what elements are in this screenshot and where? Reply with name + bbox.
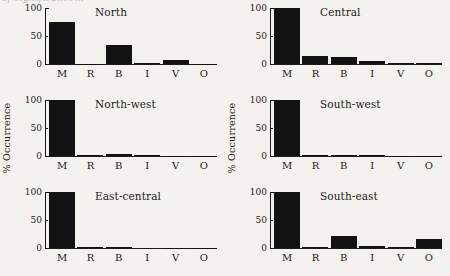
x-tick-O: O [191, 252, 217, 263]
x-tick-M: M [274, 68, 300, 79]
panel-title: South-east [320, 190, 378, 202]
y-tick-mark-50 [45, 36, 48, 37]
y-axis-label: % Occurrence [225, 92, 239, 184]
x-tick-M: M [49, 68, 75, 79]
x-tick-O: O [191, 160, 217, 171]
bar-B [106, 154, 132, 156]
x-tick-R: R [302, 252, 328, 263]
x-tick-R: R [302, 68, 328, 79]
panel-north: North100500MRBIVONorth [0, 0, 225, 92]
bar-slot-O [191, 192, 217, 248]
y-tick-50: 50 [241, 216, 267, 225]
x-tick-B: B [106, 160, 132, 171]
bar-slot-O [191, 8, 217, 64]
bar-V [388, 247, 414, 248]
bar-O [416, 63, 442, 64]
y-tick-100: 100 [16, 4, 42, 13]
bar-M [274, 100, 300, 156]
y-tick-100: 100 [241, 188, 267, 197]
x-tick-M: M [49, 252, 75, 263]
bar-slot-V [388, 8, 414, 64]
x-tick-I: I [134, 160, 160, 171]
x-tick-R: R [302, 160, 328, 171]
x-tick-B: B [106, 68, 132, 79]
panel-north-west: % Occurrence100500MRBIVONorth-west [0, 92, 225, 184]
y-tick-mark-50 [270, 36, 273, 37]
y-tick-100: 100 [16, 188, 42, 197]
x-tick-I: I [359, 68, 385, 79]
panel-grid: North100500MRBIVONorthCentral100500MRBIV… [0, 0, 450, 276]
x-tick-O: O [416, 160, 442, 171]
panel-title: Central [320, 6, 361, 18]
y-tick-labels: 100500 [239, 92, 267, 184]
bar-O [416, 239, 442, 248]
y-axis-label: % Occurrence [0, 92, 14, 184]
panel-title: North [95, 6, 127, 18]
x-tick-V: V [163, 160, 189, 171]
y-tick-100: 100 [241, 4, 267, 13]
x-tick-I: I [134, 68, 160, 79]
x-axis-baseline [270, 64, 442, 65]
y-tick-50: 50 [241, 32, 267, 41]
panel-central: Central100500MRBIVOCentral [225, 0, 450, 92]
bar-slot-M [274, 192, 300, 248]
y-tick-0: 0 [16, 60, 42, 69]
bar-R [77, 155, 103, 156]
y-tick-labels: 100500 [14, 184, 42, 276]
y-tick-mark-50 [45, 220, 48, 221]
x-axis-baseline [45, 64, 217, 65]
y-tick-0: 0 [241, 60, 267, 69]
y-tick-labels: 100500 [14, 92, 42, 184]
panel-south-west: % Occurrence100500MRBIVOSouth-west [225, 92, 450, 184]
y-tick-mark-50 [270, 128, 273, 129]
y-tick-100: 100 [241, 96, 267, 105]
x-tick-labels: MRBIVO [274, 252, 442, 263]
x-tick-I: I [359, 252, 385, 263]
y-tick-mark-50 [270, 220, 273, 221]
bar-M [274, 192, 300, 248]
bar-R [77, 247, 103, 248]
x-tick-O: O [191, 68, 217, 79]
x-tick-R: R [77, 160, 103, 171]
bar-I [134, 155, 160, 156]
y-tick-0: 0 [16, 244, 42, 253]
y-tick-50: 50 [241, 124, 267, 133]
bar-slot-I [359, 8, 385, 64]
plot-area [45, 8, 217, 65]
bar-slot-V [163, 100, 189, 156]
bar-B [106, 45, 132, 64]
bar-series [49, 8, 217, 64]
bar-slot-V [388, 192, 414, 248]
bar-M [49, 192, 75, 248]
bar-B [331, 236, 357, 248]
bar-slot-O [191, 100, 217, 156]
x-tick-labels: MRBIVO [274, 68, 442, 79]
bar-slot-M [49, 100, 75, 156]
bar-B [106, 247, 132, 248]
bar-I [359, 246, 385, 248]
x-tick-V: V [163, 68, 189, 79]
bar-slot-M [274, 8, 300, 64]
y-tick-labels: 100500 [14, 0, 42, 92]
bar-slot-O [416, 8, 442, 64]
y-tick-50: 50 [16, 216, 42, 225]
x-tick-M: M [274, 160, 300, 171]
x-tick-labels: MRBIVO [274, 160, 442, 171]
bar-M [274, 8, 300, 64]
bar-B [331, 155, 357, 156]
x-tick-R: R [77, 252, 103, 263]
bar-slot-V [163, 8, 189, 64]
y-tick-labels: 100500 [239, 184, 267, 276]
bar-slot-V [388, 100, 414, 156]
bar-M [49, 100, 75, 156]
bar-slot-M [274, 100, 300, 156]
x-tick-V: V [163, 252, 189, 263]
x-tick-V: V [388, 68, 414, 79]
bar-slot-O [416, 100, 442, 156]
panel-title: North-west [95, 98, 156, 110]
x-tick-I: I [359, 160, 385, 171]
x-tick-labels: MRBIVO [49, 252, 217, 263]
y-tick-0: 0 [241, 152, 267, 161]
x-tick-O: O [416, 252, 442, 263]
y-tick-50: 50 [16, 124, 42, 133]
